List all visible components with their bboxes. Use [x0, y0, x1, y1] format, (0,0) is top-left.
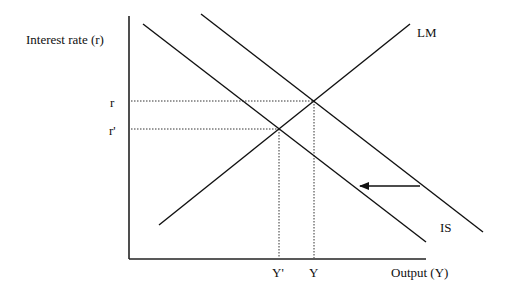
is-curve-shifted [143, 24, 426, 242]
tick-y: Y [309, 266, 318, 279]
tick-y-prime: Y' [272, 266, 284, 279]
is-label: IS [440, 221, 452, 234]
x-axis-label: Output (Y) [391, 266, 448, 279]
lm-curve [159, 24, 410, 225]
tick-r: r [110, 96, 114, 109]
is-curve-original [201, 14, 483, 232]
lm-label: LM [417, 26, 437, 39]
tick-r-prime: r' [109, 124, 116, 137]
y-axis-label: Interest rate (r) [26, 33, 104, 46]
